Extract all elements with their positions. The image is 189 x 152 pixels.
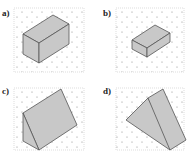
isometric-diagram xyxy=(0,0,189,152)
